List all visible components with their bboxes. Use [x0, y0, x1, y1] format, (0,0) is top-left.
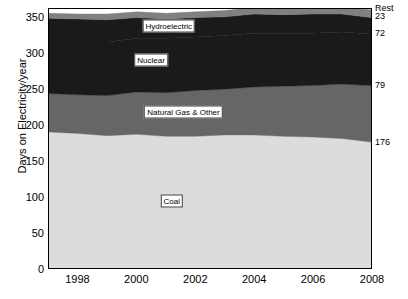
- y-tick-label: 300: [0, 47, 44, 59]
- y-tick-label: 350: [0, 11, 44, 23]
- x-tick-label: 2002: [183, 273, 207, 285]
- y-axis-ticks: 050100150200250300350: [0, 0, 48, 299]
- series-label: Coal: [160, 194, 182, 207]
- y-tick-label: 250: [0, 83, 44, 95]
- x-tick-label: 2000: [124, 273, 148, 285]
- area-series-group: [49, 9, 371, 268]
- plot-area: [48, 8, 372, 269]
- right-edge-label: 79: [375, 80, 385, 90]
- right-edge-label: 72: [375, 28, 385, 38]
- x-tick-label: 1998: [65, 273, 89, 285]
- y-tick-label: 150: [0, 155, 44, 167]
- stacked-area-chart-figure: Days on Electricity/year 050100150200250…: [0, 0, 408, 299]
- series-label: Hydroelectric: [142, 20, 195, 33]
- x-tick-label: 2004: [242, 273, 266, 285]
- y-tick-label: 200: [0, 119, 44, 131]
- y-tick-label: 50: [0, 227, 44, 239]
- y-tick-label: 100: [0, 191, 44, 203]
- y-tick-label: 0: [0, 263, 44, 275]
- right-edge-label: 176: [375, 137, 390, 147]
- area-series-coal: [49, 132, 371, 268]
- series-label: Natural Gas & Other: [144, 105, 222, 118]
- right-edge-label: 23: [375, 11, 385, 21]
- x-tick-label: 2008: [360, 273, 384, 285]
- x-tick-label: 2006: [301, 273, 325, 285]
- series-label: Nuclear: [134, 53, 168, 66]
